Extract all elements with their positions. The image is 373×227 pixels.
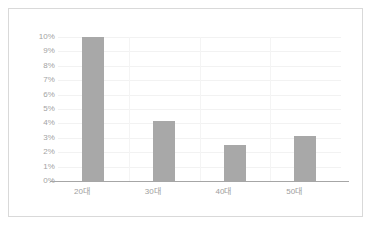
- bar-40s: [224, 145, 246, 181]
- bar-50s: [294, 136, 316, 181]
- chart-frame: 10% 9% 8% 7% 6% 5% 4% 3% 2% 1% 0%: [8, 8, 363, 217]
- y-axis-tick-label: 10%: [11, 33, 55, 41]
- bar-30s: [153, 121, 175, 181]
- y-axis-tick-label: 0%: [11, 177, 55, 185]
- y-axis-tick-label: 2%: [11, 148, 55, 156]
- x-axis-label-40s: 40대: [189, 187, 259, 197]
- y-axis-tick-label: 6%: [11, 91, 55, 99]
- x-axis-label-50s: 50대: [259, 187, 329, 197]
- x-axis-label-20s: 20대: [47, 187, 117, 197]
- category-separator: [270, 37, 271, 181]
- y-axis-tick-label: 9%: [11, 47, 55, 55]
- y-axis-tick-label: 7%: [11, 76, 55, 84]
- x-axis-label-30s: 30대: [118, 187, 188, 197]
- x-axis-line: [50, 181, 349, 182]
- y-axis-tick-labels: 10% 9% 8% 7% 6% 5% 4% 3% 2% 1% 0%: [9, 37, 55, 181]
- chart-screenshot: 10% 9% 8% 7% 6% 5% 4% 3% 2% 1% 0%: [0, 0, 373, 227]
- y-axis-tick-label: 5%: [11, 105, 55, 113]
- category-separator: [129, 37, 130, 181]
- y-axis-tick-label: 1%: [11, 163, 55, 171]
- y-axis-tick-label: 8%: [11, 62, 55, 70]
- category-separator: [200, 37, 201, 181]
- y-axis-tick-label: 4%: [11, 119, 55, 127]
- plot-area: [58, 37, 341, 181]
- y-axis-tick-label: 3%: [11, 134, 55, 142]
- bar-20s: [82, 37, 104, 181]
